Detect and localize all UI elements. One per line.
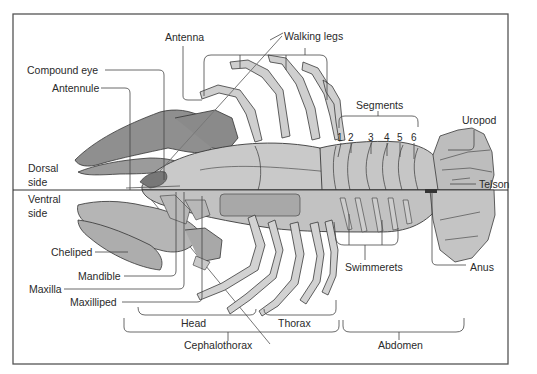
label-thorax: Thorax: [278, 317, 311, 329]
label-maxilliped: Maxilliped: [70, 296, 117, 308]
label-cephalothorax: Cephalothorax: [184, 339, 252, 351]
label-dorsal: Dorsal: [28, 162, 58, 174]
segment-number-1: 1: [337, 132, 343, 143]
label-abdomen: Abdomen: [378, 339, 423, 351]
segment-number-3: 3: [368, 132, 374, 143]
label-cheliped: Cheliped: [51, 246, 92, 258]
label-uropod: Uropod: [462, 114, 496, 126]
label-maxilla: Maxilla: [29, 283, 62, 295]
label-anus: Anus: [470, 261, 494, 273]
label-ventral-side: side: [28, 207, 47, 219]
label-head: Head: [181, 317, 206, 329]
segment-number-6: 6: [411, 132, 417, 143]
label-antennule: Antennule: [52, 82, 99, 94]
label-antenna: Antenna: [165, 31, 204, 43]
label-walking-legs: Walking legs: [284, 30, 343, 42]
label-swimmerets: Swimmerets: [345, 261, 403, 273]
label-mandible: Mandible: [78, 270, 121, 282]
segment-number-2: 2: [348, 132, 354, 143]
dorsal-view: [75, 55, 494, 190]
abdomen-dorsal: [320, 141, 440, 190]
walking-legs-ventral: [197, 215, 338, 316]
label-dorsal-side: side: [28, 176, 47, 188]
label-ventral: Ventral: [28, 193, 61, 205]
segment-number-5: 5: [397, 132, 403, 143]
crayfish-diagram: [0, 0, 537, 374]
segment-number-4: 4: [384, 132, 390, 143]
label-compound-eye: Compound eye: [27, 64, 98, 76]
label-telson: Telson: [479, 178, 509, 190]
label-segments: Segments: [356, 99, 403, 111]
